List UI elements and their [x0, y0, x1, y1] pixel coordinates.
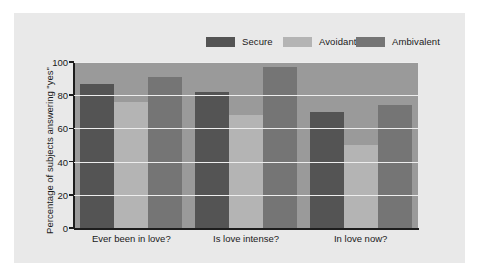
bar-avoidant-group1: [114, 102, 148, 228]
y-tick-label-20: 20: [42, 189, 68, 200]
plot-wrapper: Percentage of subjects answering "yes" 0…: [0, 0, 479, 277]
y-axis-ticklabels: 020406080100: [40, 0, 68, 277]
x-axis-label-2: Is love intense?: [213, 233, 279, 244]
bar-avoidant-group2: [229, 115, 263, 228]
gridline: [74, 195, 418, 196]
y-tick-label-60: 60: [42, 123, 68, 134]
gridline: [74, 162, 418, 163]
y-tick-label-0: 0: [42, 223, 68, 234]
y-tick-label-80: 80: [42, 90, 68, 101]
y-tick-label-100: 100: [42, 57, 68, 68]
chart-figure: Secure Avoidant Ambivalent Percentage of…: [0, 0, 479, 277]
plot-area: [74, 62, 418, 228]
bar-secure-group2: [195, 92, 229, 228]
bar-avoidant-group3: [344, 145, 378, 228]
x-axis-label-3: In love now?: [334, 233, 387, 244]
bar-ambivalent-group2: [263, 67, 297, 228]
y-axis-line: [73, 62, 75, 229]
gridline: [74, 95, 418, 96]
y-tick-mark-0: [69, 227, 74, 229]
bar-secure-group1: [80, 84, 114, 228]
x-axis-label-1: Ever been in love?: [92, 233, 171, 244]
y-tick-label-40: 40: [42, 156, 68, 167]
gridline: [74, 128, 418, 129]
bar-ambivalent-group3: [378, 105, 412, 228]
bar-ambivalent-group1: [148, 77, 182, 228]
x-axis-line: [74, 228, 419, 230]
gridline: [74, 62, 418, 63]
